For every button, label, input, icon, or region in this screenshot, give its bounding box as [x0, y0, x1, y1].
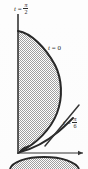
label-t-equals-zero: t = 0: [48, 45, 61, 52]
label-t-pi-over-6-eq: =: [67, 119, 71, 127]
label-t-pi-over-2: t = π 2: [14, 2, 28, 15]
figure-container: t = π 2 t = 0 t = π 6: [0, 0, 88, 169]
label-t-pi-over-2-fraction: π 2: [23, 2, 28, 15]
label-t-pi-over-2-eq: =: [18, 5, 22, 13]
label-t-pi-over-2-var: t: [14, 5, 16, 13]
label-t-pi-over-6: t = π 6: [63, 116, 77, 129]
horizontal-axis-arrowhead: [78, 151, 83, 155]
label-t-equals-zero-var: t: [48, 44, 50, 52]
label-t-pi-over-6-var: t: [63, 119, 65, 127]
partial-figure-below: [10, 157, 79, 169]
label-t-pi-over-6-fraction: π 6: [72, 116, 77, 129]
label-t-pi-over-6-denominator: 6: [72, 123, 77, 129]
label-t-pi-over-2-denominator: 2: [23, 9, 28, 15]
label-t-equals-zero-eq: =: [52, 44, 56, 52]
parametric-curve-figure: [0, 0, 88, 169]
label-t-equals-zero-value: 0: [57, 44, 61, 52]
